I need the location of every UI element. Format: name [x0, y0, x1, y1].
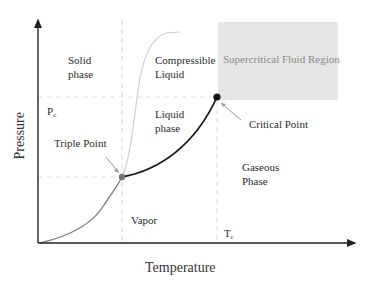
triple-point-marker — [119, 174, 125, 180]
tc-label-main: T — [224, 227, 231, 239]
gaseous-phase-label-line2: Phase — [242, 175, 279, 189]
pc-label: Pc — [47, 105, 56, 120]
solid-phase-label: Solid phase — [68, 54, 93, 82]
x-axis-title: Temperature — [145, 259, 216, 277]
sublimation-curve — [40, 177, 122, 243]
compressible-liquid-label: Compressible Liquid — [155, 54, 216, 82]
triple-point-pointer-head — [114, 168, 119, 173]
phase-diagram: Solid phase Compressible Liquid Liquid p… — [0, 0, 374, 284]
gaseous-phase-label-line1: Gaseous — [242, 161, 279, 175]
solid-phase-label-line1: Solid — [68, 54, 93, 68]
liquid-phase-label: Liquid phase — [155, 108, 184, 136]
liquid-phase-label-line1: Liquid — [155, 108, 184, 122]
tc-label-subscript: c — [231, 233, 234, 241]
critical-point-label: Critical Point — [249, 118, 308, 132]
vapor-label: Vapor — [131, 214, 157, 228]
critical-point-marker — [213, 93, 220, 100]
tc-label: Tc — [224, 227, 234, 242]
gaseous-phase-label: Gaseous Phase — [242, 161, 279, 189]
compressible-liquid-label-line2: Liquid — [155, 68, 216, 82]
liquid-phase-label-line2: phase — [155, 122, 184, 136]
supercritical-region-label: Supercritical Fluid Region — [223, 53, 340, 67]
compressible-liquid-label-line1: Compressible — [155, 54, 216, 68]
solid-phase-label-line2: phase — [68, 68, 93, 82]
triple-point-label: Triple Point — [54, 137, 106, 151]
pc-label-subscript: c — [53, 111, 56, 119]
y-axis-title: Pressure — [11, 106, 29, 166]
